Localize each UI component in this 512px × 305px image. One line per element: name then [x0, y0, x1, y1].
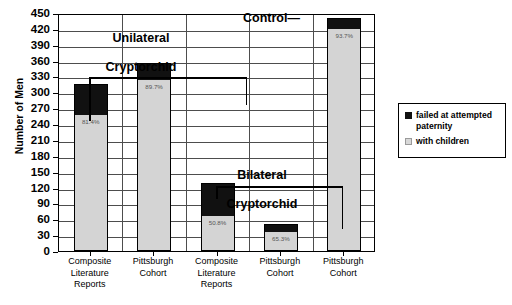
x-axis-label-2: PittsburghCohort	[121, 256, 184, 279]
unilateral-line1: Unilateral	[113, 31, 170, 45]
x-tick-mark	[90, 251, 91, 256]
y-tick-label: 0	[18, 245, 50, 257]
unilateral-line2: Cryptorchid	[106, 60, 177, 74]
y-tick-label: 210	[18, 134, 50, 146]
x-axis-label-line: Pittsburgh	[248, 256, 311, 268]
x-tick-mark	[343, 251, 344, 256]
x-axis-label-line: Reports	[58, 279, 121, 291]
y-tick-label: 390	[18, 39, 50, 51]
y-tick-label: 360	[18, 55, 50, 67]
x-axis-label-line: Literature	[58, 268, 121, 280]
y-tick-label: 330	[18, 70, 50, 82]
y-tick-label: 420	[18, 23, 50, 35]
y-tick-label: 300	[18, 86, 50, 98]
legend-label-children: with children	[416, 136, 469, 147]
y-tick-label: 240	[18, 118, 50, 130]
bar-segment-with-children: 81.4%	[75, 115, 107, 250]
x-axis-label-line: Pittsburgh	[312, 256, 375, 268]
x-tick-mark	[217, 251, 218, 256]
x-axis-label-4: PittsburghCohort	[248, 256, 311, 279]
control-callout-label: Control—	[243, 11, 300, 25]
bar-data-label: 93.7%	[328, 32, 360, 39]
y-tick-label: 120	[18, 182, 50, 194]
y-tick-label: 450	[18, 7, 50, 19]
children-swatch-icon	[405, 138, 412, 145]
legend: failed at attempted paternity with child…	[398, 103, 506, 158]
x-axis-label-line: Cohort	[248, 268, 311, 280]
legend-item-children: with children	[405, 136, 500, 147]
legend-item-failed: failed at attempted paternity	[405, 110, 500, 131]
unilateral-bracket	[89, 77, 247, 121]
x-axis-label-line: Cohort	[121, 268, 184, 280]
x-axis-label-line: Composite	[58, 256, 121, 268]
x-axis-label-line: Cohort	[312, 268, 375, 280]
y-tick-label: 180	[18, 150, 50, 162]
legend-label-failed: failed at attempted paternity	[416, 110, 500, 131]
bilateral-line1: Bilateral	[237, 168, 286, 182]
x-axis-label-line: Composite	[185, 256, 248, 268]
x-tick-mark	[153, 251, 154, 256]
y-tick-label: 60	[18, 213, 50, 225]
x-axis-label-line: Pittsburgh	[121, 256, 184, 268]
x-axis-label-3: CompositeLiteratureReports	[185, 256, 248, 291]
bar-segment-with-children: 65.3%	[265, 232, 297, 250]
y-tick-label: 90	[18, 197, 50, 209]
y-tick-label: 30	[18, 229, 50, 241]
x-axis-label-line: Reports	[185, 279, 248, 291]
y-tick-mark	[53, 252, 58, 253]
x-axis-label-5: PittsburghCohort	[312, 256, 375, 279]
unilateral-group-label: Unilateral Cryptorchid	[71, 16, 211, 74]
failed-swatch-icon	[405, 112, 412, 119]
bilateral-group-label: Bilateral Cryptorchid	[197, 153, 327, 211]
chart-container: Number of Men 45042039036033030027024021…	[0, 0, 512, 305]
y-tick-label: 150	[18, 166, 50, 178]
y-tick-label: 270	[18, 102, 50, 114]
bar-data-label: 65.3%	[265, 235, 297, 242]
x-tick-mark	[280, 251, 281, 256]
bilateral-line2: Cryptorchid	[227, 197, 298, 211]
x-axis-label-1: CompositeLiteratureReports	[58, 256, 121, 291]
x-axis-labels: CompositeLiteratureReportsPittsburghCoho…	[58, 256, 375, 304]
x-axis-label-line: Literature	[185, 268, 248, 280]
